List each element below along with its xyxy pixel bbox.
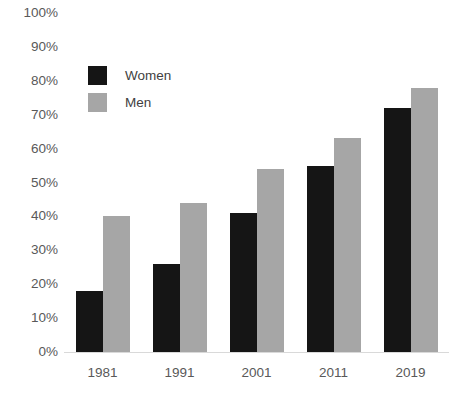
bar-women-1981 xyxy=(76,291,103,352)
y-axis-tick-label: 90% xyxy=(6,40,58,54)
bar-group xyxy=(218,13,295,352)
chart-legend: WomenMen xyxy=(88,62,208,116)
legend-label: Men xyxy=(125,96,151,110)
bar-men-2019 xyxy=(411,88,438,352)
x-axis-tick-label: 2011 xyxy=(295,360,372,386)
bar-women-1991 xyxy=(153,264,180,352)
x-axis-tick-label: 1981 xyxy=(64,360,141,386)
y-axis-tick-label: 20% xyxy=(6,277,58,291)
x-axis-tick-label: 1991 xyxy=(141,360,218,386)
bar-men-2011 xyxy=(334,138,361,352)
x-axis-tick-label: 2019 xyxy=(372,360,449,386)
y-axis-tick-label: 80% xyxy=(6,74,58,88)
y-axis: 0%10%20%30%40%50%60%70%80%90%100% xyxy=(0,0,58,398)
legend-swatch-icon xyxy=(88,93,107,112)
y-axis-tick-label: 100% xyxy=(6,6,58,20)
bar-women-2001 xyxy=(230,213,257,352)
bar-men-2001 xyxy=(257,169,284,352)
x-axis-tick-label: 2001 xyxy=(218,360,295,386)
bar-women-2011 xyxy=(307,166,334,352)
legend-swatch-icon xyxy=(88,66,107,85)
x-axis: 19811991200120112019 xyxy=(64,360,449,386)
bar-men-1991 xyxy=(180,203,207,352)
y-axis-tick-label: 40% xyxy=(6,210,58,224)
y-axis-tick-label: 70% xyxy=(6,108,58,122)
legend-label: Women xyxy=(125,69,171,83)
bar-group xyxy=(372,13,449,352)
y-axis-tick-label: 0% xyxy=(6,345,58,359)
y-axis-tick-label: 60% xyxy=(6,142,58,156)
legend-item-women: Women xyxy=(88,62,208,89)
bar-chart: 0%10%20%30%40%50%60%70%80%90%100% 198119… xyxy=(0,0,457,398)
y-axis-tick-label: 30% xyxy=(6,244,58,258)
y-axis-tick-label: 10% xyxy=(6,311,58,325)
bar-men-1981 xyxy=(103,216,130,352)
legend-item-men: Men xyxy=(88,89,208,116)
bar-group xyxy=(295,13,372,352)
bar-women-2019 xyxy=(384,108,411,352)
x-axis-line xyxy=(64,352,449,353)
y-axis-tick-label: 50% xyxy=(6,176,58,190)
